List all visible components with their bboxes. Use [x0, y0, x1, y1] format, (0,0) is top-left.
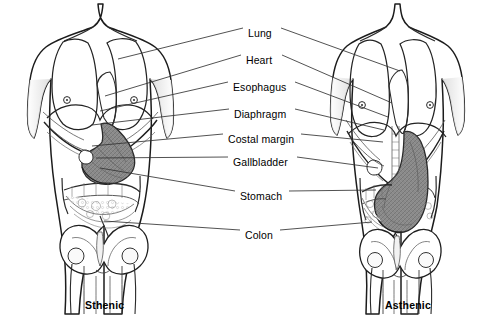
organ-label-lung: Lung [248, 28, 272, 39]
organ-label-esophagus: Esophagus [233, 82, 286, 93]
organ-label-heart: Heart [246, 55, 272, 66]
organ-label-stomach: Stomach [240, 191, 282, 202]
organ-label-costal-margin: Costal margin [228, 134, 294, 145]
leader-right-colon [280, 222, 372, 230]
diagram-canvas: LungHeartEsophagusDiaphragmCostal margin… [0, 0, 498, 319]
sthenic-shading-left [28, 79, 51, 138]
organ-label-gallbladder: Gallbladder [233, 157, 288, 168]
organ-label-colon: Colon [245, 230, 273, 241]
asthenic-figure [331, 4, 465, 314]
figure-caption-asthenic: Asthenic [385, 299, 431, 311]
organ-label-diaphragm: Diaphragm [234, 109, 286, 120]
figure-caption-sthenic: Sthenic [85, 299, 124, 311]
sthenic-shading-right [150, 79, 173, 138]
